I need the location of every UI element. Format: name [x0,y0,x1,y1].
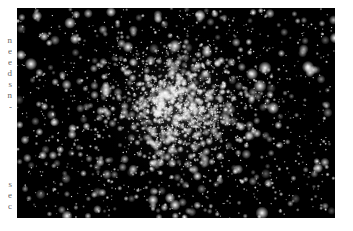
margin-text-fragment: s [8,80,12,89]
margin-text-fragment: e [8,47,12,56]
cut-off-margin-text: n e e d s n - s e c [0,0,14,231]
margin-text-fragment: - [9,103,12,112]
margin-text-fragment: n [8,91,13,100]
margin-text-fragment: d [8,69,13,78]
margin-text-fragment: e [8,191,12,200]
star-cluster-photo: Astronomical photograph of a dense globu… [17,8,335,218]
margin-text-fragment: e [8,58,12,67]
margin-text-fragment: c [8,202,12,211]
margin-text-fragment: n [8,36,13,45]
star-field-canvas [17,8,335,218]
margin-text-fragment: s [8,180,12,189]
